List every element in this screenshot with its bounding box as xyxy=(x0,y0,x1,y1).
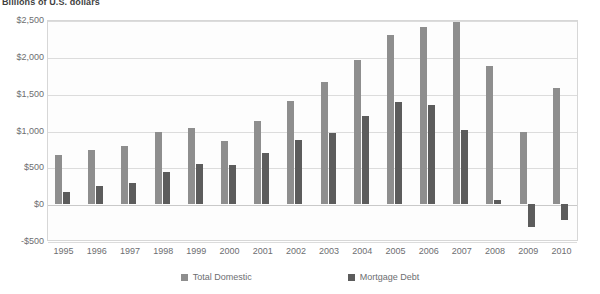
bar-mortgage-debt[interactable] xyxy=(129,183,136,204)
bar-total-domestic[interactable] xyxy=(486,66,493,204)
bar-mortgage-debt[interactable] xyxy=(528,204,535,227)
y-axis-tick-label: $0 xyxy=(0,199,44,209)
bar-group xyxy=(80,20,113,241)
bar-total-domestic[interactable] xyxy=(155,132,162,204)
bar-group xyxy=(113,20,146,241)
y-axis-tick-label: $500 xyxy=(0,162,44,172)
x-axis-tick-label: 2006 xyxy=(419,246,439,256)
x-axis-tick-label: 2008 xyxy=(485,246,505,256)
bar-group xyxy=(412,20,445,241)
bar-total-domestic[interactable] xyxy=(55,155,62,204)
bar-total-domestic[interactable] xyxy=(321,82,328,204)
bar-group xyxy=(180,20,213,241)
x-axis-tick-label: 2005 xyxy=(385,246,405,256)
x-axis-tick-label: 2000 xyxy=(220,246,240,256)
bar-mortgage-debt[interactable] xyxy=(229,165,236,204)
bar-mortgage-debt[interactable] xyxy=(494,200,501,204)
bar-total-domestic[interactable] xyxy=(188,128,195,204)
bar-total-domestic[interactable] xyxy=(287,101,294,204)
x-axis-tick-label: 1996 xyxy=(87,246,107,256)
bar-group xyxy=(47,20,80,241)
bar-group xyxy=(246,20,279,241)
chart-legend: Total DomesticMortgage Debt xyxy=(0,272,600,282)
y-axis-tick-label: $1,500 xyxy=(0,89,44,99)
bar-mortgage-debt[interactable] xyxy=(428,105,435,204)
legend-swatch-icon xyxy=(348,274,355,281)
bar-total-domestic[interactable] xyxy=(121,146,128,204)
x-axis-tick-label: 2009 xyxy=(518,246,538,256)
x-axis-tick-label: 2007 xyxy=(452,246,472,256)
x-axis-tick-label: 2002 xyxy=(286,246,306,256)
bar-mortgage-debt[interactable] xyxy=(63,192,70,204)
bar-total-domestic[interactable] xyxy=(221,141,228,204)
bar-mortgage-debt[interactable] xyxy=(461,130,468,204)
chart-title: Billions of U.S. dollars xyxy=(2,0,100,7)
bar-mortgage-debt[interactable] xyxy=(96,186,103,204)
bar-mortgage-debt[interactable] xyxy=(395,102,402,204)
bar-mortgage-debt[interactable] xyxy=(295,140,302,204)
bar-group xyxy=(313,20,346,241)
bar-group xyxy=(213,20,246,241)
y-axis-tick-label: $2,000 xyxy=(0,52,44,62)
chart-container: Billions of U.S. dollars $2,500$2,000$1,… xyxy=(0,0,600,294)
bar-group xyxy=(147,20,180,241)
x-axis-tick-label: 1995 xyxy=(54,246,74,256)
x-axis-tick-label: 1997 xyxy=(120,246,140,256)
y-axis-tick-label: -$500 xyxy=(0,236,44,246)
bar-total-domestic[interactable] xyxy=(520,132,527,204)
bar-mortgage-debt[interactable] xyxy=(362,116,369,204)
x-axis-tick-label: 1998 xyxy=(153,246,173,256)
bar-mortgage-debt[interactable] xyxy=(561,204,568,219)
bar-group xyxy=(478,20,511,241)
y-axis-tick-label: $1,000 xyxy=(0,126,44,136)
bars-layer xyxy=(47,20,578,241)
bar-total-domestic[interactable] xyxy=(420,27,427,205)
legend-label: Total Domestic xyxy=(193,272,252,282)
gridline xyxy=(48,242,577,243)
y-axis-tick-label: $2,500 xyxy=(0,15,44,25)
bar-group xyxy=(279,20,312,241)
bar-total-domestic[interactable] xyxy=(88,150,95,204)
bar-group xyxy=(545,20,578,241)
legend-label: Mortgage Debt xyxy=(360,272,420,282)
bar-group xyxy=(445,20,478,241)
bar-group xyxy=(346,20,379,241)
x-axis-tick-label: 1999 xyxy=(186,246,206,256)
bar-mortgage-debt[interactable] xyxy=(163,172,170,204)
bar-group xyxy=(512,20,545,241)
bar-total-domestic[interactable] xyxy=(354,60,361,204)
bar-total-domestic[interactable] xyxy=(387,35,394,204)
bar-group xyxy=(379,20,412,241)
bar-mortgage-debt[interactable] xyxy=(329,133,336,204)
bar-total-domestic[interactable] xyxy=(553,88,560,204)
bar-total-domestic[interactable] xyxy=(254,121,261,204)
x-axis-tick-label: 2010 xyxy=(551,246,571,256)
x-axis-tick-label: 2001 xyxy=(253,246,273,256)
bar-mortgage-debt[interactable] xyxy=(196,164,203,205)
x-axis-tick-label: 2003 xyxy=(319,246,339,256)
legend-item-mortgage[interactable]: Mortgage Debt xyxy=(348,272,420,282)
legend-item-total[interactable]: Total Domestic xyxy=(181,272,252,282)
x-axis-tick-label: 2004 xyxy=(352,246,372,256)
legend-swatch-icon xyxy=(181,274,188,281)
bar-mortgage-debt[interactable] xyxy=(262,153,269,204)
bar-total-domestic[interactable] xyxy=(453,22,460,204)
